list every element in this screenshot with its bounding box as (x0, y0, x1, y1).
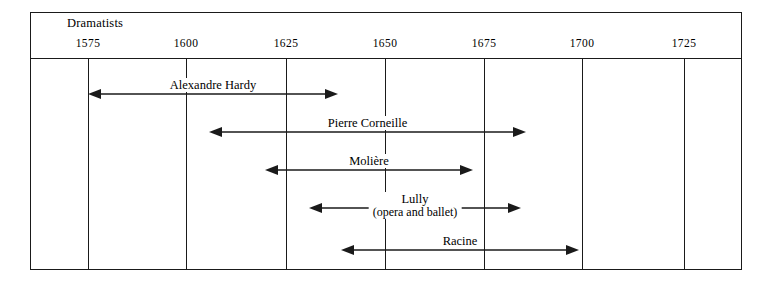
span-row-racine: Racine (31, 231, 741, 269)
span-moliere: Molière (265, 151, 473, 189)
span-racine: Racine (341, 231, 579, 269)
x-tick-label-1675: 1675 (472, 37, 497, 49)
span-label-lully: Lully (opera and ballet) (369, 192, 462, 219)
x-tick-label-1700: 1700 (570, 37, 595, 49)
span-row-moliere: Molière (31, 151, 741, 189)
x-tick-label-1600: 1600 (174, 37, 199, 49)
span-label-racine: Racine (439, 234, 482, 248)
span-row-pierre-corneille: Pierre Corneille (31, 113, 741, 151)
chart-header-band: Dramatists 1575 1600 1625 1650 1675 1700… (31, 13, 741, 59)
span-alexandre-hardy: Alexandre Hardy (88, 75, 338, 113)
span-row-lully: Lully (opera and ballet) (31, 189, 741, 227)
x-tick-label-1650: 1650 (373, 37, 398, 49)
span-pierre-corneille: Pierre Corneille (209, 113, 526, 151)
x-tick-label-1625: 1625 (274, 37, 299, 49)
span-label-text: Pierre Corneille (328, 116, 408, 130)
span-label-moliere: Molière (345, 154, 393, 168)
span-label-pierre-corneille: Pierre Corneille (324, 116, 412, 130)
span-lully: Lully (opera and ballet) (309, 189, 521, 227)
x-tick-label-1725: 1725 (672, 37, 697, 49)
span-label-text: Lully (401, 192, 428, 206)
chart-frame: Dramatists 1575 1600 1625 1650 1675 1700… (30, 12, 742, 270)
span-sublabel-lully: (opera and ballet) (373, 206, 458, 219)
plot-area: Alexandre Hardy Pierre Corneille (31, 59, 741, 269)
span-label-alexandre-hardy: Alexandre Hardy (166, 78, 260, 92)
x-tick-label-1575: 1575 (76, 37, 101, 49)
span-row-alexandre-hardy: Alexandre Hardy (31, 75, 741, 113)
span-label-text: Racine (443, 234, 478, 248)
timeline-figure: Dramatists 1575 1600 1625 1650 1675 1700… (0, 0, 763, 286)
span-label-text: Molière (349, 154, 389, 168)
span-label-text: Alexandre Hardy (170, 78, 256, 92)
chart-title: Dramatists (67, 16, 123, 31)
